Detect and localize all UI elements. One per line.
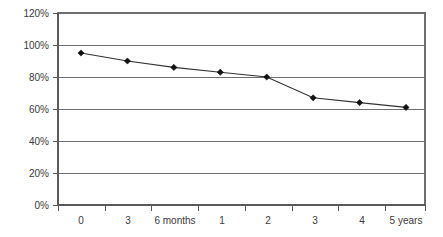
x-tick-label-7: 5 years — [390, 215, 423, 226]
x-tick-label-1: 3 — [125, 215, 131, 226]
x-tick-label-4: 2 — [265, 215, 271, 226]
y-tick-label-80: 80% — [29, 72, 49, 83]
y-tick-label-100: 100% — [23, 40, 49, 51]
y-axis-ticks — [53, 13, 58, 205]
x-tick-label-0: 0 — [78, 215, 84, 226]
y-tick-label-120: 120% — [23, 8, 49, 19]
x-axis-tick-labels: 0 3 6 months 1 2 3 4 5 years — [78, 215, 422, 226]
line-chart: 120% 100% 80% 60% 40% 20% 0% 0 3 6 month… — [0, 0, 443, 237]
y-tick-label-20: 20% — [29, 168, 49, 179]
x-tick-label-2: 6 months — [154, 215, 195, 226]
y-tick-label-0: 0% — [35, 200, 50, 211]
x-tick-label-5: 3 — [312, 215, 318, 226]
y-tick-label-40: 40% — [29, 136, 49, 147]
x-tick-label-6: 4 — [359, 215, 365, 226]
x-tick-label-3: 1 — [219, 215, 225, 226]
y-axis-tick-labels: 120% 100% 80% 60% 40% 20% 0% — [23, 8, 49, 211]
y-tick-label-60: 60% — [29, 104, 49, 115]
chart-container: 120% 100% 80% 60% 40% 20% 0% 0 3 6 month… — [0, 0, 443, 237]
x-axis-ticks — [58, 205, 425, 211]
